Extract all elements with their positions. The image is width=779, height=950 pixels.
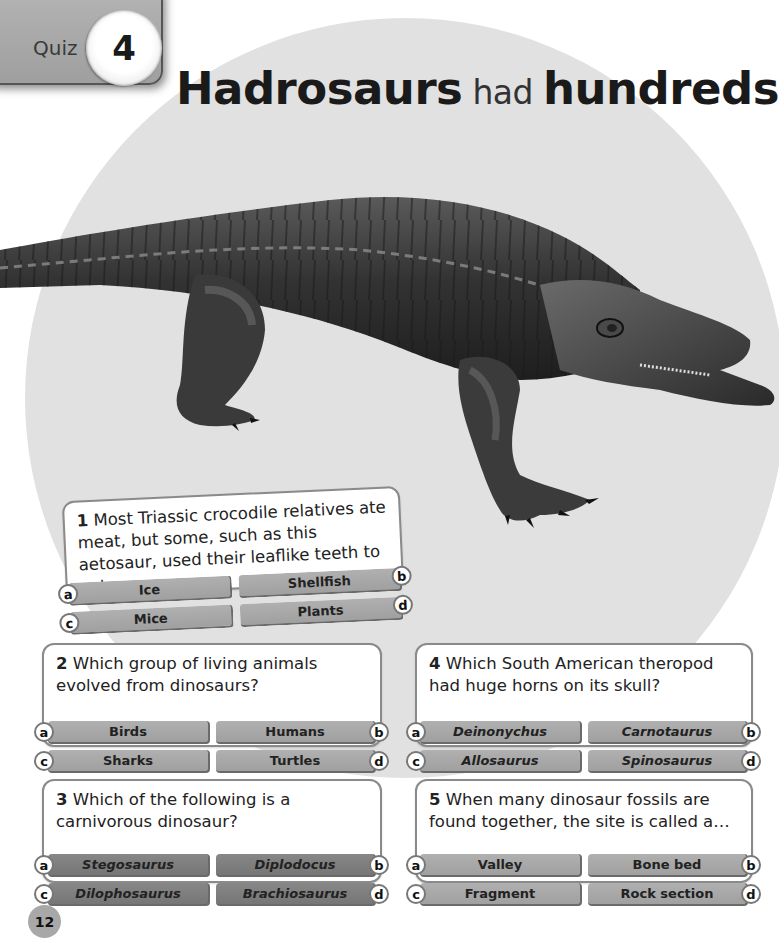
question-3-text: 3 Which of the following is a carnivorou… (56, 789, 368, 833)
option-letter-a: a (406, 855, 426, 875)
option-letter-b: b (741, 855, 761, 875)
question-3-option-b[interactable]: Diplodocus (216, 854, 376, 877)
option-letter-d: d (369, 884, 389, 904)
option-letter-c: c (406, 884, 426, 904)
option-letter-b: b (741, 722, 761, 742)
question-1-option-d[interactable]: Plants (240, 597, 404, 627)
option-letter-c: c (34, 751, 54, 771)
question-4-option-b[interactable]: Carnotaurus (588, 721, 748, 744)
question-3-option-c[interactable]: Dilophosaurus (48, 883, 210, 906)
question-1-option-c[interactable]: Mice (70, 605, 234, 635)
question-5-option-b[interactable]: Bone bed (588, 854, 748, 877)
question-2-option-b[interactable]: Humans (216, 721, 376, 744)
question-2-option-c[interactable]: Sharks (48, 750, 210, 773)
option-letter-c: c (406, 751, 426, 771)
question-4-option-a[interactable]: Deinonychus (420, 721, 582, 744)
question-2-text: 2 Which group of living animals evolved … (56, 653, 368, 697)
option-letter-d: d (741, 751, 761, 771)
option-letter-b: b (369, 722, 389, 742)
option-letter-d: d (741, 884, 761, 904)
option-letter-a: a (34, 722, 54, 742)
option-letter-a: a (34, 855, 54, 875)
question-5-option-c[interactable]: Fragment (420, 883, 582, 906)
option-letter-a: a (406, 722, 426, 742)
question-5-text: 5 When many dinosaur fossils are found t… (429, 789, 739, 833)
option-letter-b: b (391, 565, 412, 586)
option-letter-c: c (34, 884, 54, 904)
question-4-option-d[interactable]: Spinosaurus (588, 750, 748, 773)
question-3-option-a[interactable]: Stegosaurus (48, 854, 210, 877)
question-4-text: 4 Which South American theropod had huge… (429, 653, 739, 697)
question-2-option-d[interactable]: Turtles (216, 750, 376, 773)
page-number-badge: 12 (28, 905, 61, 938)
question-4-option-c[interactable]: Allosaurus (420, 750, 582, 773)
page-number: 12 (35, 914, 54, 930)
option-letter-d: d (392, 594, 413, 615)
option-letter-d: d (369, 751, 389, 771)
question-3-option-d[interactable]: Brachiosaurus (216, 883, 376, 906)
question-5-option-d[interactable]: Rock section (588, 883, 748, 906)
question-2-option-a[interactable]: Birds (48, 721, 210, 744)
question-5-option-a[interactable]: Valley (420, 854, 582, 877)
option-letter-b: b (369, 855, 389, 875)
